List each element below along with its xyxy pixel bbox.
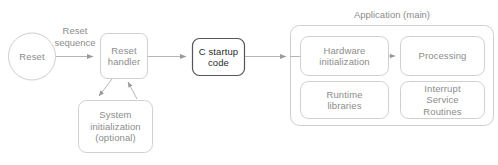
node-hardware-init-shape: [301, 37, 389, 76]
node-processing-shape: [401, 37, 485, 76]
node-system-init-shape: [79, 101, 153, 153]
group-application-title: Application (main): [330, 9, 454, 21]
node-interrupt-service-routines-shape: [401, 82, 485, 119]
node-reset-handler-shape: [101, 34, 148, 79]
edge-system-init-to-reset-handler: [128, 82, 137, 99]
diagram-canvas: Reset Reset sequence Reset handler Syste…: [0, 0, 498, 165]
node-runtime-libraries-shape: [301, 82, 389, 119]
node-c-startup-shape: [193, 39, 245, 76]
edge-reset-handler-to-system-init: [99, 79, 112, 96]
edge-label-reset-sequence: Reset sequence: [44, 25, 106, 48]
